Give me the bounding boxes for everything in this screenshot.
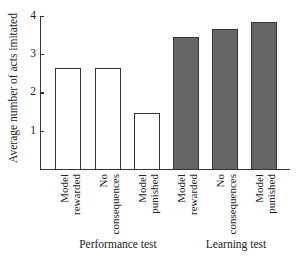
group-label-learning: Learning test [186, 238, 286, 250]
bar-learning-2 [251, 22, 277, 170]
y-tick [40, 54, 44, 55]
bar-performance-0 [55, 68, 81, 170]
y-tick-label: 4 [28, 9, 36, 21]
y-tick [40, 131, 44, 132]
category-label: Modelrewarded [175, 174, 201, 244]
y-axis-label: Average number of acts imitated [7, 13, 19, 163]
category-label: Noconsequences [97, 174, 123, 244]
group-label-performance: Performance test [58, 238, 178, 250]
y-tick-label: 2 [28, 85, 36, 97]
y-tick [40, 92, 44, 93]
bar-performance-1 [95, 68, 121, 170]
y-tick-label: 3 [28, 47, 36, 59]
category-label: Modelpunished [253, 174, 279, 244]
bar-performance-2 [134, 113, 160, 170]
y-tick [40, 16, 44, 17]
y-tick-label: 1 [28, 124, 36, 136]
bar-learning-1 [212, 29, 238, 170]
category-label: Modelrewarded [58, 174, 84, 244]
category-label: Modelpunished [136, 174, 162, 244]
bar-learning-0 [173, 37, 199, 170]
category-label: Noconsequences [214, 174, 240, 244]
